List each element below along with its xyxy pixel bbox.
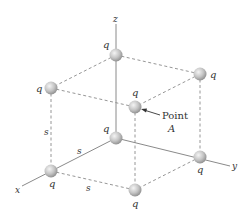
point-a-label-line2: A [167, 123, 175, 134]
charge-sphere-top-right [194, 68, 207, 81]
x-axis-line [22, 138, 116, 186]
edge-top-left-front [51, 88, 135, 107]
edge-label-vertical: s [44, 127, 49, 137]
edge-top-back-right [116, 55, 200, 74]
charge-sphere-point-a [129, 101, 142, 114]
charge-sphere-origin [110, 132, 123, 145]
charge-label-top-back: q [103, 39, 109, 50]
charge-label-origin: q [103, 123, 109, 134]
cube-edges-dashed [51, 55, 200, 190]
point-a-arrow [141, 109, 160, 116]
point-a-label-line1: Point [162, 110, 188, 121]
diagram-canvas: z x y s s s Point A q q q q q q [0, 0, 249, 219]
charge-sphere-top-left [45, 82, 58, 95]
y-axis-label: y [231, 161, 238, 171]
edge-bottom-right-front [135, 157, 200, 190]
z-axis-label: z [112, 14, 118, 24]
cube-charge-diagram: z x y s s s Point A q q q q q q [0, 0, 249, 219]
charge-sphere-bottom-front [129, 184, 142, 197]
edge-label-x: s [77, 146, 82, 156]
x-axis-label: x [15, 185, 20, 195]
charge-label-top-left: q [36, 83, 42, 94]
edge-top-back-left [51, 55, 116, 88]
charges [45, 49, 207, 197]
charge-label-point-a: q [132, 87, 138, 98]
y-axis-line [116, 138, 230, 166]
edge-bottom-left-front [51, 171, 135, 190]
charge-sphere-y [194, 151, 207, 164]
charge-label-x: q [49, 178, 55, 189]
charge-sphere-x [45, 165, 58, 178]
charge-label-top-right: q [210, 69, 216, 80]
edge-top-right-front [135, 74, 200, 107]
charge-label-y: q [197, 164, 203, 175]
charge-sphere-top-back [110, 49, 123, 62]
edge-label-front: s [86, 183, 91, 193]
charge-label-bottom-front: q [132, 198, 138, 209]
